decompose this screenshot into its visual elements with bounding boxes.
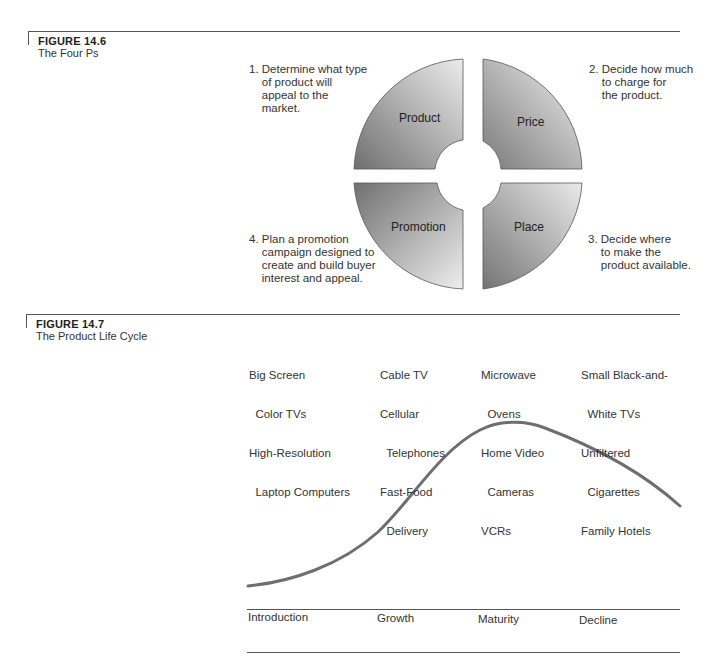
- quadrant-place: [483, 183, 582, 289]
- quadrant-label-product: Product: [399, 111, 440, 125]
- note-price: 2. Decide how much to charge for the pro…: [589, 63, 693, 102]
- quadrant-price: [483, 59, 582, 169]
- stage-introduction: Introduction: [248, 611, 308, 623]
- stage-decline: Decline: [579, 614, 617, 626]
- figure-14-7-number: FIGURE 14.7: [36, 318, 104, 330]
- note-product: 1. Determine what type of product will a…: [249, 63, 367, 115]
- quadrant-label-promotion: Promotion: [391, 220, 446, 234]
- quadrant-label-price: Price: [517, 115, 544, 129]
- stage-axis-bottom-rule: [247, 652, 680, 653]
- note-promotion: 4. Plan a promotion campaign designed to…: [249, 233, 376, 285]
- stage-growth: Growth: [377, 612, 414, 624]
- stage-maturity: Maturity: [478, 613, 519, 625]
- stage-axis-top-rule: [247, 609, 680, 610]
- examples-decline: Small Black-and- White TVs Unfiltered Ci…: [581, 343, 668, 551]
- examples-growth: Cable TV Cellular Telephones Fast-Food D…: [380, 343, 445, 551]
- figure-14-7-left-tick: [26, 314, 27, 328]
- examples-introduction: Big Screen Color TVs High-Resolution Lap…: [249, 343, 350, 512]
- figure-14-7-top-rule: [26, 314, 680, 315]
- note-place: 3. Decide where to make the product avai…: [588, 233, 691, 272]
- examples-maturity: Microwave Ovens Home Video Cameras VCRs: [481, 343, 544, 551]
- figure-14-7-title: The Product Life Cycle: [36, 330, 147, 343]
- quadrant-label-place: Place: [514, 220, 544, 234]
